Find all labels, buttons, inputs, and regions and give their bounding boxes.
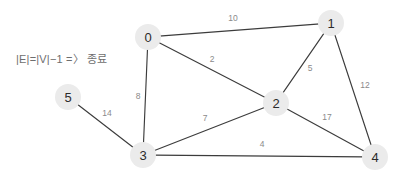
graph-edge bbox=[143, 48, 147, 144]
annotation-text: |E|=|V|−1 =〉 종료 bbox=[16, 50, 108, 66]
graph-node-label-0: 0 bbox=[144, 30, 151, 45]
graph-node-label-4: 4 bbox=[371, 150, 378, 165]
graph-svg: 012345 1028512717414 bbox=[0, 0, 399, 174]
edge-weight-3-4: 4 bbox=[260, 139, 265, 149]
graph-node-label-2: 2 bbox=[272, 96, 279, 111]
edge-weight-2-3: 7 bbox=[203, 113, 208, 123]
graph-node-label-5: 5 bbox=[64, 90, 71, 105]
edge-weight-0-1: 10 bbox=[228, 13, 238, 23]
edge-weight-2-4: 17 bbox=[322, 112, 332, 122]
graph-edge bbox=[282, 32, 325, 94]
graph-edge bbox=[153, 107, 266, 151]
edge-weight-0-2: 2 bbox=[210, 54, 215, 64]
graph-edge bbox=[158, 42, 266, 98]
graph-node-label-3: 3 bbox=[139, 148, 146, 163]
graph-edge bbox=[334, 33, 371, 146]
graph-node-label-1: 1 bbox=[327, 16, 334, 31]
graph-diagram-canvas: 012345 1028512717414 |E|=|V|−1 =〉 종료 bbox=[0, 0, 399, 174]
edge-weight-1-4: 12 bbox=[360, 80, 370, 90]
graph-edge bbox=[159, 24, 320, 36]
edge-weight-0-3: 8 bbox=[136, 91, 141, 101]
nodes-layer: 012345 bbox=[55, 10, 388, 170]
edges-layer bbox=[77, 24, 372, 157]
graph-edge bbox=[154, 155, 364, 157]
edge-weight-1-2: 5 bbox=[308, 63, 313, 73]
edge-weight-5-3: 14 bbox=[102, 108, 112, 118]
